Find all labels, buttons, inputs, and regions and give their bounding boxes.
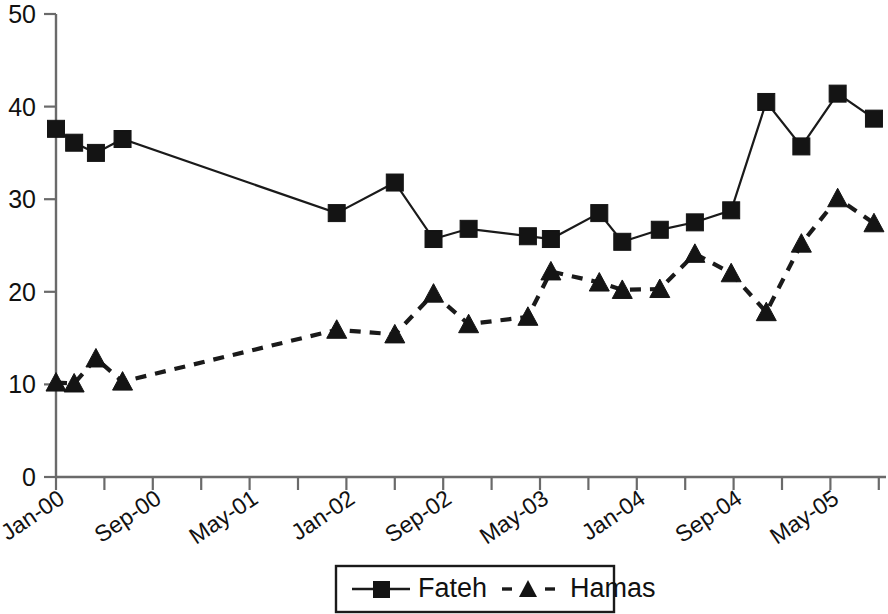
x-tick-label: Jan-02 xyxy=(286,485,359,546)
line-chart: 01020304050 Jan-00Sep-00May-01Jan-02Sep-… xyxy=(0,0,888,614)
data-point-marker xyxy=(519,228,536,245)
data-point-marker xyxy=(114,131,131,148)
chart-legend: Fateh Hamas xyxy=(336,566,656,612)
x-tick-label: May-03 xyxy=(475,485,553,549)
data-point-marker xyxy=(87,144,104,161)
data-point-marker xyxy=(723,202,740,219)
x-tick-label: Sep-04 xyxy=(670,484,746,547)
y-tick-label: 30 xyxy=(8,185,36,213)
data-point-marker xyxy=(424,284,444,303)
y-axis: 01020304050 xyxy=(8,0,56,491)
data-point-marker xyxy=(591,205,608,222)
series-markers-hamas xyxy=(46,188,884,392)
y-tick-label: 50 xyxy=(8,0,36,28)
x-tick-label: Jan-00 xyxy=(0,485,69,546)
y-tick-label: 10 xyxy=(8,370,36,398)
data-point-marker xyxy=(113,372,133,391)
data-point-marker xyxy=(327,320,347,339)
series-group xyxy=(46,85,884,392)
y-tick-label: 20 xyxy=(8,278,36,306)
series-line-fateh xyxy=(56,94,874,242)
data-point-marker xyxy=(48,120,65,137)
x-tick-label: Jan-04 xyxy=(577,484,650,545)
data-point-marker xyxy=(829,85,846,102)
x-axis: Jan-00Sep-00May-01Jan-02Sep-02May-03Jan-… xyxy=(0,477,886,549)
data-point-marker xyxy=(793,138,810,155)
x-tick-label: Sep-02 xyxy=(380,485,456,548)
data-point-marker xyxy=(758,93,775,110)
legend-marker-square-fateh xyxy=(373,581,390,598)
data-point-marker xyxy=(425,231,442,248)
data-point-marker xyxy=(685,244,705,263)
y-axis-ticks xyxy=(44,14,56,477)
data-point-marker xyxy=(385,324,405,343)
y-tick-label: 40 xyxy=(8,93,36,121)
data-point-marker xyxy=(66,134,83,151)
data-point-marker xyxy=(614,233,631,250)
series-markers-fateh xyxy=(48,85,883,250)
chart-container: 01020304050 Jan-00Sep-00May-01Jan-02Sep-… xyxy=(0,0,888,614)
data-point-marker xyxy=(460,220,477,237)
data-point-marker xyxy=(828,188,848,207)
x-tick-label: May-01 xyxy=(184,485,262,549)
data-point-marker xyxy=(542,231,559,248)
data-point-marker xyxy=(328,205,345,222)
x-tick-label: May-05 xyxy=(765,485,843,549)
data-point-marker xyxy=(865,110,882,127)
data-point-marker xyxy=(686,214,703,231)
y-axis-tick-labels: 01020304050 xyxy=(8,0,36,491)
data-point-marker xyxy=(721,263,741,282)
x-axis-ticks xyxy=(56,477,879,490)
data-point-marker xyxy=(86,348,106,367)
data-point-marker xyxy=(651,221,668,238)
data-point-marker xyxy=(541,261,561,280)
x-axis-tick-labels: Jan-00Sep-00May-01Jan-02Sep-02May-03Jan-… xyxy=(0,484,843,549)
y-tick-label: 0 xyxy=(22,463,36,491)
data-point-marker xyxy=(459,314,479,333)
data-point-marker xyxy=(386,174,403,191)
x-tick-label: Sep-00 xyxy=(90,485,166,548)
legend-label-hamas: Hamas xyxy=(570,573,656,603)
legend-label-fateh: Fateh xyxy=(418,573,487,603)
